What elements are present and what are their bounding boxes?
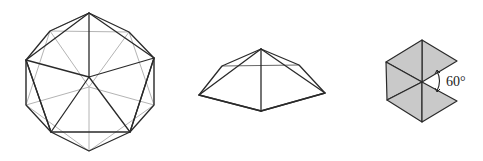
angle-arc-icon	[435, 70, 440, 92]
angle-label: 60°	[446, 74, 466, 89]
figure-canvas: 60°	[0, 0, 483, 161]
pentagonal-pyramid	[199, 49, 325, 111]
triangle-net: 60°	[386, 40, 466, 122]
icosahedron-hidden-edges	[26, 13, 154, 151]
icosahedron	[26, 13, 154, 151]
icosahedron-visible-edges	[26, 13, 154, 151]
